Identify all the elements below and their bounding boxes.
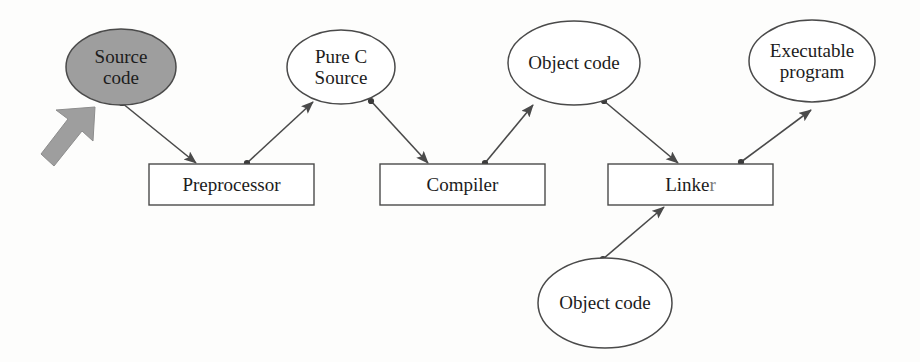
node-preprocessor[interactable] (149, 164, 314, 205)
highlight-block-arrow-icon (41, 107, 95, 166)
compilation-process-diagram: Source code Pure C Source Object code Ex… (0, 0, 920, 362)
edge-object-code-to-linker (604, 101, 678, 163)
edge-compiler-to-object-code (485, 105, 533, 163)
node-object-code-top[interactable] (508, 21, 640, 105)
node-executable-program[interactable] (749, 20, 875, 102)
node-linker[interactable] (608, 164, 773, 205)
node-object-code-bottom[interactable] (538, 258, 672, 348)
edge-object-code-bottom-to-linker (603, 207, 664, 259)
edge-pure-c-source-to-compiler (371, 101, 428, 163)
edge-linker-to-executable-program (741, 110, 811, 162)
node-pure-c-source[interactable] (287, 30, 395, 104)
node-compiler[interactable] (380, 164, 545, 205)
edge-source-code-to-preprocessor (122, 103, 196, 163)
diagram-canvas (0, 0, 920, 362)
edge-preprocessor-to-pure-c-source (247, 102, 313, 163)
node-source-code[interactable] (66, 29, 176, 105)
